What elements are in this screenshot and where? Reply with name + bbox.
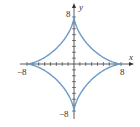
x-axis-label: x xyxy=(129,53,133,62)
x-axis-arrow-icon xyxy=(129,62,134,66)
y-axis-arrow-icon xyxy=(72,3,76,8)
x-max-label: 8 xyxy=(120,68,125,77)
astroid-plot xyxy=(0,0,140,127)
y-min-label: −8 xyxy=(59,110,69,119)
x-min-label: −8 xyxy=(17,68,27,77)
y-axis-label: y xyxy=(79,3,83,12)
y-max-label: 8 xyxy=(66,10,71,19)
